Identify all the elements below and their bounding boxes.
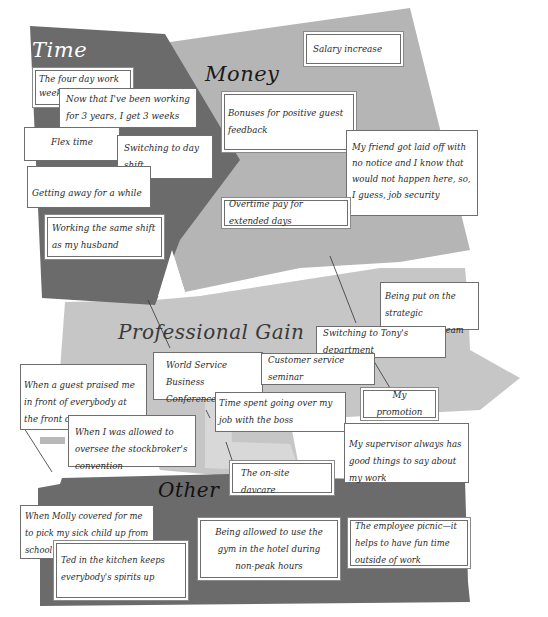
card-pg-time-with-boss: Time spent going over my job with the bo… — [215, 392, 346, 432]
card-money-overtime-pay: Overtime pay for extended days — [224, 200, 348, 226]
heading-professional-gain: Professional Gain — [118, 320, 305, 344]
card-pg-strategic-team: Being put on the strategic development t… — [380, 282, 479, 330]
card-other-ted-kitchen: Ted in the kitchen keeps everybody's spi… — [56, 543, 186, 598]
card-money-job-security: My friend got laid off with no notice an… — [346, 130, 478, 216]
heading-time: Time — [32, 38, 87, 62]
card-money-bonuses: Bonuses for positive guest feedback — [224, 94, 354, 150]
card-time-same-shift: Working the same shift as my husband — [47, 217, 162, 257]
card-other-on-site-daycare: The on-site daycare — [232, 463, 332, 493]
card-pg-stockbroker-convention: When I was allowed to oversee the stockb… — [68, 415, 196, 467]
affinity-diagram: Time Money Professional Gain Other The f… — [0, 0, 548, 617]
card-money-salary-increase: Salary increase — [306, 34, 401, 64]
card-time-getting-away: Getting away for a while — [27, 166, 151, 208]
card-pg-customer-service-seminar: Customer service seminar — [261, 353, 375, 385]
heading-money: Money — [205, 62, 279, 86]
card-other-gym: Being allowed to use the gym in the hote… — [200, 520, 338, 578]
card-other-employee-picnic: The employee picnic—it helps to have fun… — [350, 520, 468, 566]
card-pg-supervisor-good-things: My supervisor always has good things to … — [344, 423, 469, 483]
card-time-flex-time: Flex time — [24, 127, 120, 161]
card-time-3-weeks-vacation: Now that I've been working for 3 years, … — [59, 88, 197, 128]
heading-other: Other — [158, 478, 219, 502]
connector-line — [24, 428, 52, 472]
card-pg-my-promotion: My promotion — [363, 390, 436, 418]
